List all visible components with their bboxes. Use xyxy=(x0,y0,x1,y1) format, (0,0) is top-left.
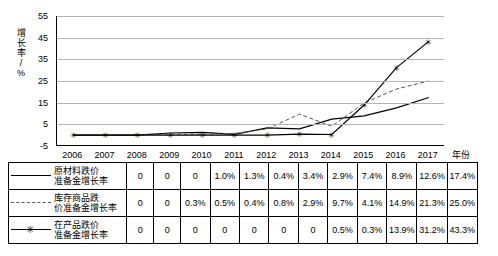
gridline xyxy=(57,38,444,39)
series-marker: ✳ xyxy=(102,131,109,140)
legend-label: 在产品跌价准备金增长率 xyxy=(54,220,108,240)
legend-data-table: 原材料跌价准备金增长率0001.0%1.3%0.4%3.4%2.9%7.4%8.… xyxy=(8,162,478,244)
legend-entry: ✳在产品跌价准备金增长率 xyxy=(9,217,127,244)
table-cell-value: 0.5% xyxy=(328,217,357,244)
series-marker: ✳ xyxy=(264,131,271,140)
legend-label: 库存商品跌价准备金增长率 xyxy=(54,193,117,213)
y-axis-tick-label: 5 xyxy=(26,120,48,128)
table-cell-value: 0 xyxy=(154,163,181,190)
y-axis-tick-label: 35 xyxy=(26,55,48,63)
legend-swatch xyxy=(11,197,51,209)
table-cell-value: 8.9% xyxy=(387,163,417,190)
series-marker: ✳ xyxy=(393,64,400,73)
table-cell-value: 0 xyxy=(210,217,239,244)
table-cell-value: 2.9% xyxy=(328,163,357,190)
table-cell-value: 13.9% xyxy=(387,217,417,244)
series-marker: ✳ xyxy=(328,131,335,140)
table-cell-value: 14.9% xyxy=(387,190,417,217)
x-axis-tick-label: 2017 xyxy=(408,150,448,160)
series-marker: ✳ xyxy=(199,131,206,140)
y-axis-tick-label: -5 xyxy=(26,142,48,150)
y-axis-tick-label: 45 xyxy=(26,34,48,42)
series-marker: ✳ xyxy=(167,131,174,140)
table-cell-value: 9.7% xyxy=(328,190,357,217)
table-cell-value: 17.4% xyxy=(447,163,477,190)
table-cell-value: 0.3% xyxy=(181,190,210,217)
table-cell-value: 1.0% xyxy=(210,163,239,190)
series-marker: ✳ xyxy=(231,131,238,140)
series-marker: ✳ xyxy=(425,38,432,47)
table-cell-value: 0 xyxy=(154,190,181,217)
series-marker: ✳ xyxy=(134,131,141,140)
series-line xyxy=(73,81,429,135)
table-cell-value: 0 xyxy=(127,163,154,190)
table-cell-value: 0.4% xyxy=(240,190,269,217)
chart-figure: 增长率/% 55453525155-5 ✳✳✳✳✳✳✳✳✳✳✳✳ 2006200… xyxy=(0,0,498,256)
table-cell-value: 43.3% xyxy=(447,217,477,244)
y-axis-tick-label: 25 xyxy=(26,77,48,85)
table-row: 库存商品跌价准备金增长率000.3%0.5%0.4%0.8%2.9%9.7%4.… xyxy=(9,190,478,217)
table-cell-value: 31.2% xyxy=(417,217,447,244)
table-cell-value: 0.8% xyxy=(269,190,298,217)
gridline xyxy=(57,16,444,17)
table-cell-value: 0 xyxy=(181,163,210,190)
table-cell-value: 21.3% xyxy=(417,190,447,217)
legend-entry: 库存商品跌价准备金增长率 xyxy=(9,190,127,217)
y-axis-tick-label: 55 xyxy=(26,12,48,20)
table-cell-value: 0.3% xyxy=(357,217,386,244)
table-cell-value: 0 xyxy=(154,217,181,244)
table-cell-value: 3.4% xyxy=(298,163,327,190)
gridline xyxy=(57,103,444,104)
legend-marker-icon: ✳ xyxy=(26,225,34,235)
table-row: ✳在产品跌价准备金增长率00000000.5%0.3%13.9%31.2%43.… xyxy=(9,217,478,244)
legend-label: 原材料跌价准备金增长率 xyxy=(54,166,108,186)
table-cell-value: 25.0% xyxy=(447,190,477,217)
table-cell-value: 12.6% xyxy=(417,163,447,190)
table-cell-value: 0.5% xyxy=(210,190,239,217)
gridline xyxy=(57,81,444,82)
table-cell-value: 1.3% xyxy=(240,163,269,190)
legend-swatch xyxy=(11,170,51,182)
table-cell-value: 0 xyxy=(127,217,154,244)
table-row: 原材料跌价准备金增长率0001.0%1.3%0.4%3.4%2.9%7.4%8.… xyxy=(9,163,478,190)
gridline xyxy=(57,59,444,60)
y-axis-tick-label: 15 xyxy=(26,99,48,107)
table-cell-value: 0.4% xyxy=(269,163,298,190)
table-cell-value: 7.4% xyxy=(357,163,386,190)
table-cell-value: 0 xyxy=(181,217,210,244)
legend-entry: 原材料跌价准备金增长率 xyxy=(9,163,127,190)
table-cell-value: 0 xyxy=(269,217,298,244)
legend-swatch: ✳ xyxy=(11,224,51,236)
series-marker: ✳ xyxy=(70,131,77,140)
series-marker: ✳ xyxy=(296,130,303,139)
x-axis-title: 年份 xyxy=(452,148,470,161)
gridline xyxy=(57,124,444,125)
series-line xyxy=(73,41,429,135)
plot-area: ✳✳✳✳✳✳✳✳✳✳✳✳ xyxy=(56,16,444,146)
table-cell-value: 0 xyxy=(127,190,154,217)
table-cell-value: 0 xyxy=(240,217,269,244)
table-cell-value: 2.9% xyxy=(298,190,327,217)
table-cell-value: 0 xyxy=(298,217,327,244)
table-cell-value: 4.1% xyxy=(357,190,386,217)
